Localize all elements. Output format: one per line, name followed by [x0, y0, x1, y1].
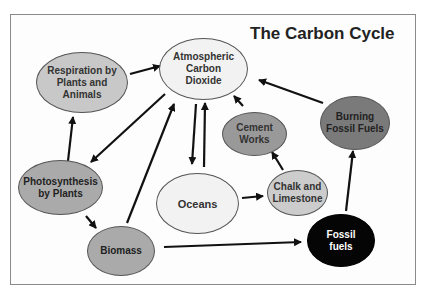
node-fossil-fuels: Fossil fuels	[307, 214, 375, 267]
node-biomass: Biomass	[87, 226, 155, 276]
node-label: Respiration by Plants and Animals	[47, 65, 116, 101]
node-photosynthesis: Photosynthesis by Plants	[18, 160, 103, 215]
node-cement-works: Cement Works	[222, 112, 287, 156]
arrow-biomass-to-fossil	[164, 242, 301, 247]
arrow-photosynthesis-to-biomass	[86, 216, 96, 228]
node-label: Chalk and Limestone	[272, 181, 322, 205]
arrow-oceans-to-atmosphere	[204, 103, 205, 167]
node-label: Fossil fuels	[327, 229, 356, 253]
arrow-photosynthesis-to-respiration	[68, 117, 73, 161]
node-label: Photosynthesis by Plants	[23, 176, 97, 200]
node-atmospheric-co2: Atmospheric Carbon Dioxide	[159, 38, 248, 100]
arrow-respiration-to-atmosphere	[130, 66, 160, 74]
node-label: Cement Works	[236, 122, 273, 146]
arrow-burning-to-atmosphere	[259, 80, 323, 103]
arrow-oceans-to-chalk	[242, 196, 263, 198]
node-label: Burning Fossil Fuels	[326, 111, 384, 135]
arrow-cement-to-atmosphere	[234, 96, 243, 106]
node-label: Biomass	[100, 245, 142, 257]
arrow-atmosphere-to-oceans	[192, 104, 196, 164]
diagram-title: The Carbon Cycle	[250, 24, 395, 44]
node-label: Oceans	[178, 198, 218, 210]
node-burning-fossil-fuels: Burning Fossil Fuels	[320, 96, 390, 150]
arrow-fossil-to-burning	[346, 151, 353, 211]
node-respiration: Respiration by Plants and Animals	[36, 52, 128, 113]
node-label: Atmospheric Carbon Dioxide	[173, 51, 234, 87]
node-chalk-limestone: Chalk and Limestone	[267, 170, 328, 216]
arrow-chalk-to-cement	[272, 152, 283, 170]
node-oceans: Oceans	[156, 173, 239, 234]
